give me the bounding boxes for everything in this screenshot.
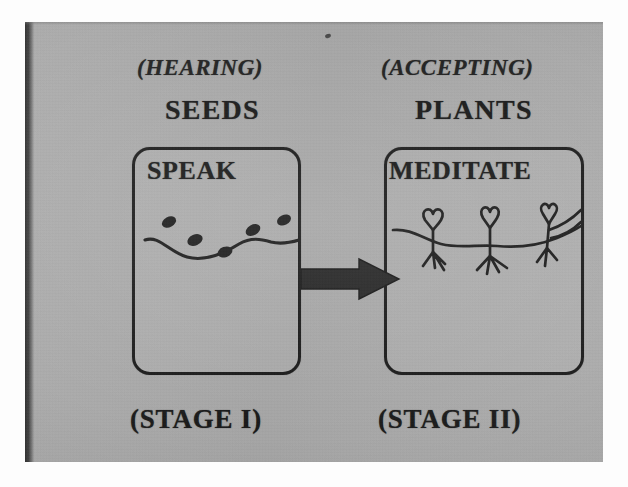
plants-sketch: [391, 200, 583, 290]
dust-speck-artifact: [325, 33, 332, 39]
page-top-edge-shadow: [25, 22, 603, 25]
process-arrow: [301, 256, 401, 306]
seeds-sketch: [143, 204, 303, 274]
stage-2-box-title: MEDITATE: [389, 156, 532, 186]
stage-2-parenthetical: (ACCEPTING): [381, 55, 533, 81]
stage-1-box-title: SPEAK: [147, 156, 237, 186]
photographed-page: (HEARING) SEEDS SPEAK (STAGE I) (ACCEPTI…: [25, 22, 603, 462]
stage-1-heading: SEEDS: [165, 94, 260, 126]
stage-1-parenthetical: (HEARING): [137, 55, 263, 81]
right-arrow-icon: [301, 256, 401, 302]
figure-page: (HEARING) SEEDS SPEAK (STAGE I) (ACCEPTI…: [0, 0, 628, 487]
stage-2-label: (STAGE II): [378, 404, 521, 435]
stage-2-heading: PLANTS: [415, 94, 533, 126]
stage-1-label: (STAGE I): [130, 404, 262, 435]
page-spine-shadow: [25, 22, 34, 462]
